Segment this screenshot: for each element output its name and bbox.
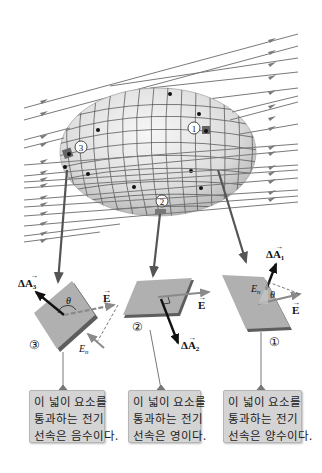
- panel-2: E → ΔA2 → ②: [123, 278, 209, 353]
- surface-marker-3: 3: [75, 141, 87, 153]
- en-vector-3: [88, 334, 104, 348]
- area-element-3-plate: [34, 281, 98, 352]
- svg-text:→: →: [198, 293, 206, 302]
- svg-text:→: →: [103, 286, 111, 295]
- theta-label-1: θ: [270, 289, 275, 300]
- panel-number-3: ③: [29, 338, 40, 352]
- caption-positive-flux: 이 넓이 요소를 통과하는 전기 선속은 양수이다.: [223, 390, 302, 443]
- panel-number-1: ①: [269, 335, 280, 349]
- en-label-3: En: [78, 343, 89, 356]
- svg-text:→: →: [292, 298, 300, 307]
- projection-dashed-3: [96, 305, 118, 344]
- vector-arrow-accent: →: [30, 271, 38, 280]
- svg-text:→: →: [188, 333, 196, 342]
- caption-negative-flux: 이 넓이 요소를 통과하는 전기 선속은 음수이다.: [29, 390, 105, 443]
- svg-text:→: →: [275, 242, 283, 251]
- caption-connectors: [59, 330, 265, 390]
- panel-3: ΔA3 → θ E → En ③: [18, 271, 118, 356]
- surface-marker-1: 1: [188, 122, 200, 134]
- caption-zero-flux: 이 넓이 요소를 통과하는 전기 선속은 영이다.: [128, 390, 201, 443]
- svg-text:3: 3: [79, 143, 84, 153]
- svg-text:1: 1: [192, 124, 197, 134]
- panel-number-2: ②: [132, 320, 143, 334]
- theta-label-3: θ: [66, 295, 71, 306]
